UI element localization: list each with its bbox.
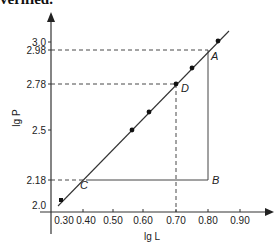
x-tick-label: 0.50 [103, 215, 123, 226]
data-point [130, 128, 135, 133]
data-point [174, 82, 179, 87]
data-point [190, 66, 195, 71]
x-tick-label: 0.40 [76, 215, 96, 226]
x-tick-label: 0.30 [54, 215, 74, 226]
x-tick-label: 0.70 [166, 215, 186, 226]
axes [40, 16, 268, 234]
y-tick-label: 2.0 [32, 200, 46, 211]
data-points [59, 39, 220, 202]
x-axis-title: lg L [144, 231, 161, 242]
data-point [147, 110, 152, 115]
y-axis-arrow-icon [47, 12, 55, 22]
point-label-d: D [181, 82, 189, 94]
data-point [59, 198, 63, 202]
point-label-b: B [212, 174, 219, 186]
point-label-c: C [80, 179, 88, 191]
data-point [216, 39, 221, 44]
y-tick-label: 2.5 [32, 125, 46, 136]
x-tick-label: 0.80 [198, 215, 218, 226]
x-axis-arrow-icon [265, 208, 274, 216]
slope-triangle [88, 50, 208, 180]
dashed-guides [51, 50, 208, 212]
y-tick-label: 2.18 [27, 175, 47, 186]
lg-p-vs-lg-l-chart: 3.0 2.98 2.78 2.5 2.18 2.0 0.30 0.40 0.5… [0, 0, 279, 246]
y-axis-title: lg P [11, 109, 22, 127]
point-label-a: A [210, 50, 218, 62]
x-tick-label: 0.90 [230, 215, 250, 226]
x-tick-label: 0.60 [133, 215, 153, 226]
y-tick-label: 2.78 [27, 79, 47, 90]
y-tick-label: 2.98 [27, 45, 47, 56]
